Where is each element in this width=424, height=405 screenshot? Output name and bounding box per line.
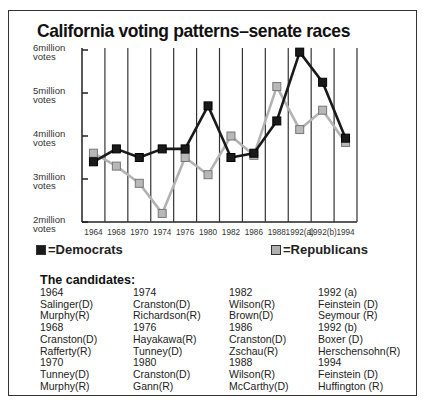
candidate-year: 1974 [133,287,201,299]
republican-point [273,83,281,91]
x-tick-label: 1994 [336,228,355,237]
candidates-heading: The candidates: [40,273,135,287]
legend-democrats-label: =Democrats [48,242,123,257]
x-tick-label: 1970 [130,228,149,237]
republican-point [112,162,120,170]
x-tick-label: 1992(b) [309,228,337,237]
republican-point [204,171,212,179]
candidates-column-4: 1992 (a)Feinstein (D)Seymour (R)1992 (b)… [318,287,400,392]
republican-swatch-icon [271,245,281,255]
x-tick-label: 1982 [222,228,241,237]
y-tick-label: 3millionvotes [33,171,65,191]
candidates-column-1: 1964Salinger(D)Murphy(R)1968Cranston(D)R… [40,287,97,392]
democrat-point [112,145,120,153]
candidate-year: 1992 (a) [318,287,400,299]
candidates-column-3: 1982Wilson(R)Brown(D)1986Cranston(D)Zsch… [229,287,289,392]
republican-point [319,106,327,114]
candidate-year: 1982 [229,287,289,299]
republican-point [181,154,189,162]
democrat-point [342,134,350,142]
democrat-point [135,154,143,162]
x-tick-label: 1980 [199,228,218,237]
y-tick-label: 6millionvotes [33,42,65,62]
democrat-point [227,154,235,162]
candidate-name: Cranston(D) [229,334,289,346]
candidate-name: Boxer (D) [318,334,400,346]
democrat-point [273,117,281,125]
x-tick-label: 1968 [107,228,126,237]
republican-point [135,179,143,187]
democrat-point [158,145,166,153]
legend-republicans: =Republicans [271,242,368,257]
republican-point [296,126,304,134]
republican-point [227,132,235,140]
y-tick-label: 4millionvotes [33,128,65,148]
democrat-point [296,48,304,56]
democrat-point [250,149,258,157]
x-tick-label: 1964 [84,228,103,237]
candidate-name: Feinstein (D) [318,369,400,381]
democrat-point [319,78,327,86]
candidate-name: Murphy(R) [40,381,97,393]
x-tick-label: 1976 [176,228,195,237]
legend-republicans-label: =Republicans [283,242,368,257]
y-tick-label: 2millionvotes [33,214,65,234]
x-tick-label: 1988 [268,228,287,237]
republican-point [158,209,166,217]
line-chart: 6millionvotes5millionvotes4millionvotes3… [0,0,424,270]
x-tick-label: 1974 [153,228,172,237]
candidate-name: Hayakawa(R) [133,334,201,346]
democrat-swatch-icon [36,245,46,255]
legend-democrats: =Democrats [36,242,123,257]
democrat-point [89,158,97,166]
candidate-name: Wilson(R) [229,369,289,381]
candidates-column-2: 1974Cranston(D)Richardson(R)1976Hayakawa… [133,287,201,392]
candidate-name: Cranston(D) [40,334,97,346]
candidate-name: Gann(R) [133,381,201,393]
candidate-name: Tunney(D) [40,369,97,381]
candidate-name: Cranston(D) [133,369,201,381]
candidate-name: McCarthy(D) [229,381,289,393]
democrat-point [181,145,189,153]
x-tick-label: 1986 [245,228,264,237]
y-tick-label: 5millionvotes [33,85,65,105]
democrat-point [204,102,212,110]
republican-point [89,149,97,157]
candidate-name: Huffington (R) [318,381,400,393]
candidate-year: 1964 [40,287,97,299]
